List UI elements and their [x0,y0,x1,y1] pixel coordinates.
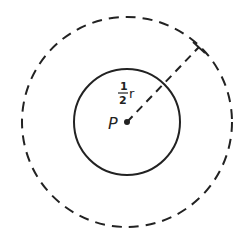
radius-dashed-line [127,47,199,122]
radius-label-numerator: 1 [120,80,128,93]
center-point-label: P [108,114,118,133]
center-point-dot [124,119,130,125]
radius-end-tick [193,42,205,53]
radius-label-variable: r [129,86,135,101]
concentric-circles-diagram: P 1 2 r [0,0,244,237]
radius-label-denominator: 2 [119,94,127,107]
